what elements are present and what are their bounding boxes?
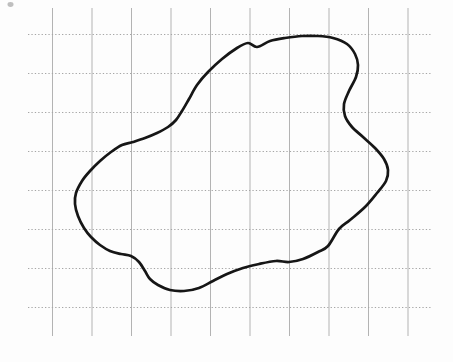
graph-paper-page [0,0,453,362]
hand-drawn-blob-curve [75,36,388,291]
ink-smudge [8,2,14,7]
blob-on-grid-figure [0,0,453,362]
